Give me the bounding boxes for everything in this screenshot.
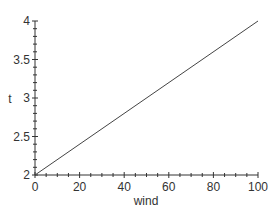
x-tick-label: 0 [32, 180, 39, 194]
x-tick-label: 20 [73, 180, 87, 194]
y-tick-label: 3 [23, 91, 30, 105]
y-tick-labels: 22.533.54 [13, 14, 30, 182]
x-tick-labels: 020406080100 [32, 180, 269, 194]
x-tick-label: 60 [162, 180, 176, 194]
y-tick-label: 2 [23, 168, 30, 182]
line-chart: 020406080100 22.533.54 wind t [0, 0, 277, 224]
y-tick-label: 2.5 [13, 130, 30, 144]
y-tick-label: 3.5 [13, 53, 30, 67]
x-tick-label: 80 [207, 180, 221, 194]
y-axis-label: t [8, 92, 12, 106]
y-tick-label: 4 [23, 14, 30, 28]
data-line [35, 21, 258, 175]
x-axis-label: wind [133, 194, 159, 208]
x-tick-label: 100 [248, 180, 268, 194]
x-tick-label: 40 [118, 180, 132, 194]
plot-area [35, 21, 258, 175]
